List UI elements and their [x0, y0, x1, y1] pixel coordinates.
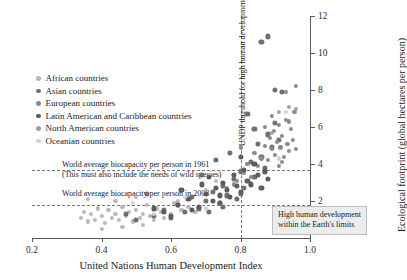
y-tick-label: 10 [318, 48, 328, 58]
x-tick [171, 238, 172, 242]
y-tick-label: 2 [318, 196, 323, 206]
plot-area [32, 16, 310, 238]
x-tick [310, 238, 311, 242]
y-tick-label: 6 [318, 122, 323, 132]
y-tick [310, 16, 315, 17]
y-tick [310, 201, 315, 202]
x-tick-label: 0.6 [165, 245, 177, 255]
x-tick [102, 238, 103, 242]
y-tick [310, 53, 315, 54]
y-tick-label: 8 [318, 85, 323, 95]
x-tick-label: 0.2 [26, 245, 38, 255]
x-tick [32, 238, 33, 242]
x-tick-label: 0.8 [235, 245, 247, 255]
y-tick [310, 90, 315, 91]
x-tick-label: 0.4 [96, 245, 108, 255]
x-tick [241, 238, 242, 242]
x-tick-label: 1.0 [304, 245, 316, 255]
y-axis-title: Ecological footprint (global hectares pe… [396, 38, 407, 232]
y-tick-label: 4 [318, 159, 323, 169]
y-tick [310, 164, 315, 165]
x-axis-title: United Nations Human Development Index [79, 260, 262, 271]
y-tick-label: 12 [318, 11, 328, 21]
y-tick [310, 127, 315, 128]
